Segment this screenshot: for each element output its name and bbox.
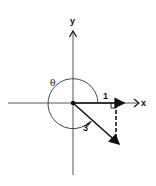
arc-label: 3 — [83, 123, 88, 133]
vector-diagram: x y θ 1 3 — [0, 0, 156, 186]
y-axis: y — [70, 16, 77, 175]
y-axis-label: y — [70, 16, 75, 26]
angle-label: θ — [50, 78, 55, 88]
origin-point — [71, 101, 75, 105]
x-axis-label: x — [141, 98, 146, 108]
unit-length-label: 1 — [103, 91, 108, 101]
rotated-vector — [73, 103, 119, 144]
